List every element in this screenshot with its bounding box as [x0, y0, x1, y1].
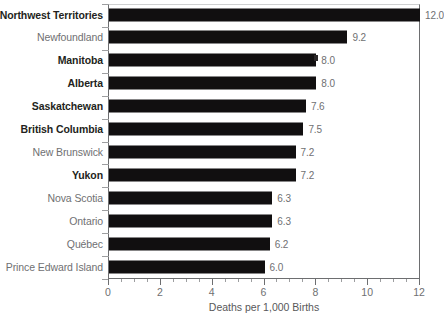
bar-value-label: 6.3 — [277, 192, 291, 203]
x-axis-major-tick — [160, 279, 161, 285]
bar — [109, 237, 270, 250]
category-label: New Brunswick — [33, 146, 103, 158]
chart-row: Saskatchewan7.6 — [0, 96, 444, 117]
x-axis-minor-tick — [341, 279, 342, 282]
y-axis-tick — [102, 164, 109, 165]
x-axis-minor-tick — [134, 279, 135, 282]
y-axis-tick — [102, 73, 109, 74]
x-axis-tick-label: 2 — [157, 286, 163, 298]
bar — [109, 146, 296, 159]
x-axis-tick-label: 4 — [209, 286, 215, 298]
bar — [109, 260, 265, 273]
x-axis-major-tick — [367, 279, 368, 285]
bar — [109, 123, 303, 136]
x-axis-major-tick — [108, 279, 109, 285]
category-label: Saskatchewan — [32, 100, 103, 112]
x-axis-minor-tick — [121, 279, 122, 282]
x-axis-major-tick — [212, 279, 213, 285]
x-axis-minor-tick — [186, 279, 187, 282]
category-label: British Columbia — [21, 123, 103, 135]
bar-value-label: 6.2 — [275, 238, 289, 249]
x-axis-minor-tick — [251, 279, 252, 282]
category-label: Ontario — [69, 215, 103, 227]
chart-row: New Brunswick7.2 — [0, 142, 444, 163]
x-axis-tick-label: 10 — [361, 286, 373, 298]
x-axis-minor-tick — [276, 279, 277, 282]
bar-value-label: 7.2 — [301, 147, 315, 158]
bar-value-label: 6.3 — [277, 215, 291, 226]
y-axis-tick — [102, 142, 109, 143]
y-axis-tick — [102, 187, 109, 188]
bar-value-label: 6.0 — [270, 261, 284, 272]
x-axis-major-tick — [315, 279, 316, 285]
x-axis-minor-tick — [380, 279, 381, 282]
x-axis-minor-tick — [302, 279, 303, 282]
category-label: Nova Scotia — [47, 192, 103, 204]
bar — [109, 31, 347, 44]
x-axis-minor-tick — [238, 279, 239, 282]
bar-value-label: 7.5 — [308, 124, 322, 135]
y-axis-tick — [102, 50, 109, 51]
y-axis-tick — [102, 256, 109, 257]
bar — [109, 168, 296, 181]
y-axis-tick — [102, 96, 109, 97]
x-axis-minor-tick — [225, 279, 226, 282]
chart-row: Newfoundland9.2 — [0, 27, 444, 48]
chart-row: Yukon7.2 — [0, 164, 444, 185]
scan-artifact — [314, 55, 318, 61]
chart-row: Nova Scotia6.3 — [0, 187, 444, 208]
x-axis-minor-tick — [173, 279, 174, 282]
bar — [109, 214, 272, 227]
chart-row: Northwest Territories12.0 — [0, 4, 444, 25]
x-axis-tick-label: 8 — [312, 286, 318, 298]
x-axis-major-tick — [419, 279, 420, 285]
x-axis-minor-tick — [199, 279, 200, 282]
chart-row: Québec6.2 — [0, 233, 444, 254]
category-label: Yukon — [72, 169, 103, 181]
bar-value-label: 8.0 — [321, 78, 335, 89]
x-axis-minor-tick — [328, 279, 329, 282]
x-axis-minor-tick — [147, 279, 148, 282]
x-axis-tick-label: 12 — [413, 286, 425, 298]
y-axis-tick — [102, 4, 109, 5]
x-axis-minor-tick — [354, 279, 355, 282]
category-label: Alberta — [68, 77, 103, 89]
chart-rows: Northwest Territories12.0Newfoundland9.2… — [0, 4, 444, 279]
category-label: Prince Edward Island — [6, 261, 103, 273]
bar-value-label: 7.2 — [301, 169, 315, 180]
bar — [109, 77, 316, 90]
bar — [109, 8, 420, 21]
bar-value-label: 8.0 — [321, 55, 335, 66]
category-label: Québec — [67, 238, 103, 250]
x-axis-minor-tick — [289, 279, 290, 282]
bar-value-label: 7.6 — [311, 101, 325, 112]
chart-row: Manitoba8.0 — [0, 50, 444, 71]
bar-value-label: 12.0 — [425, 9, 444, 20]
chart-row: Alberta8.0 — [0, 73, 444, 94]
y-axis-tick — [102, 27, 109, 28]
x-axis-tick-label: 6 — [261, 286, 267, 298]
x-axis-minor-tick — [406, 279, 407, 282]
category-label: Northwest Territories — [0, 9, 103, 21]
bar-chart: Northwest Territories12.0Newfoundland9.2… — [0, 0, 444, 313]
y-axis-tick — [102, 210, 109, 211]
bar — [109, 100, 306, 113]
category-label: Newfoundland — [37, 31, 103, 43]
x-axis-title: Deaths per 1,000 Births — [108, 301, 420, 313]
x-axis-minor-tick — [393, 279, 394, 282]
x-axis-major-tick — [264, 279, 265, 285]
y-axis-tick — [102, 119, 109, 120]
bar-value-label: 9.2 — [352, 32, 366, 43]
bar — [109, 191, 272, 204]
x-axis-tick-label: 0 — [105, 286, 111, 298]
bar — [109, 54, 316, 67]
x-axis: Deaths per 1,000 Births 024681012 — [108, 279, 420, 313]
y-axis-tick — [102, 233, 109, 234]
category-label: Manitoba — [58, 54, 103, 66]
chart-row: Ontario6.3 — [0, 210, 444, 231]
chart-row: British Columbia7.5 — [0, 119, 444, 140]
chart-row: Prince Edward Island6.0 — [0, 256, 444, 277]
